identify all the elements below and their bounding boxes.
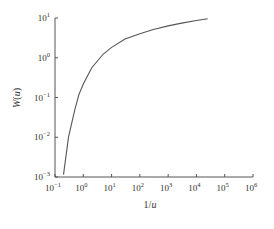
x-tick-label: 102: [132, 181, 144, 193]
axes: [55, 18, 253, 177]
x-tick-label: 103: [160, 181, 172, 193]
y-tick-label: 10−3: [34, 170, 50, 182]
x-tick-label: 104: [188, 181, 201, 193]
y-axis-ticks: 10−310−210−1100101: [34, 11, 58, 182]
x-tick-label: 101: [103, 181, 115, 193]
y-tick-label: 10−1: [34, 91, 50, 103]
x-axis-title: 1/u: [144, 199, 157, 210]
y-tick-label: 100: [38, 51, 50, 63]
y-tick-label: 101: [38, 11, 50, 23]
x-tick-label: 106: [245, 181, 258, 193]
well-function-chart: 10−1100101102103104105106 10−310−210−110…: [0, 0, 274, 229]
x-tick-label: 100: [75, 181, 87, 193]
series-line-w-u: [64, 19, 208, 175]
x-tick-label: 10−1: [45, 181, 61, 193]
y-axis-title: W(u): [11, 88, 23, 108]
y-tick-label: 10−2: [34, 130, 50, 142]
x-tick-label: 105: [217, 181, 229, 193]
